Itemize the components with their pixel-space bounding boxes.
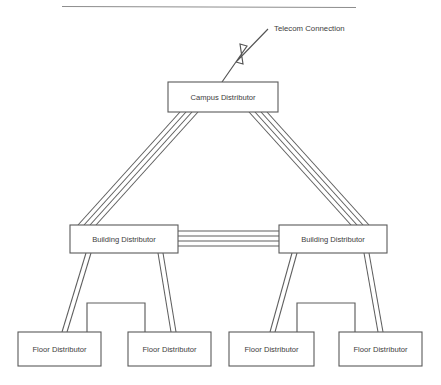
- trunk-campus-to-building-right: [249, 112, 369, 225]
- drop-building-left-to-floor-2: [158, 253, 176, 332]
- bracket-floor-3-to-floor-4: [297, 303, 355, 332]
- header-divider: [62, 7, 356, 8]
- node-floor-distributor-4[interactable]: Floor Distributor: [339, 332, 422, 366]
- bracket-floor-1-to-floor-2: [87, 303, 145, 332]
- floor-distributor-2-label: Floor Distributor: [142, 345, 196, 354]
- node-floor-distributor-3[interactable]: Floor Distributor: [229, 332, 314, 366]
- drop-building-right-to-floor-4: [364, 253, 383, 332]
- node-building-distributor-left[interactable]: Building Distributor: [70, 225, 178, 253]
- floor-distributor-1-label: Floor Distributor: [32, 345, 86, 354]
- network-topology-diagram: Telecom Connection: [0, 0, 441, 385]
- drop-building-right-to-floor-3: [270, 253, 297, 332]
- diagram-canvas: Telecom Connection: [0, 0, 441, 385]
- node-building-distributor-right[interactable]: Building Distributor: [279, 225, 387, 253]
- node-floor-distributor-2[interactable]: Floor Distributor: [128, 332, 211, 366]
- telecom-connection-bolt-icon: [222, 29, 268, 82]
- building-distributor-left-label: Building Distributor: [92, 235, 156, 244]
- telecom-connection-label: Telecom Connection: [274, 24, 345, 33]
- trunk-campus-to-building-left: [78, 112, 198, 225]
- node-floor-distributor-1[interactable]: Floor Distributor: [18, 332, 101, 366]
- campus-distributor-label: Campus Distributor: [191, 93, 256, 102]
- link-building-left-to-building-right: [178, 231, 279, 246]
- floor-distributor-3-label: Floor Distributor: [244, 345, 298, 354]
- node-campus-distributor[interactable]: Campus Distributor: [168, 82, 278, 112]
- building-distributor-right-label: Building Distributor: [301, 235, 365, 244]
- floor-distributor-4-label: Floor Distributor: [353, 345, 407, 354]
